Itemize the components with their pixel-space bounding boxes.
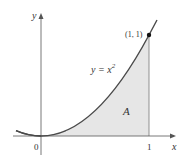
point-1-1 xyxy=(147,33,151,37)
y-axis-label: y xyxy=(31,10,37,21)
region-label-a: A xyxy=(122,105,130,117)
point-label: (1, 1) xyxy=(125,30,143,39)
area-diagram: y x 0 1 (1, 1) y = x2 A xyxy=(0,0,183,164)
x-axis-arrow-icon xyxy=(170,134,176,139)
y-axis-arrow-icon xyxy=(39,13,44,19)
origin-label: 0 xyxy=(34,142,39,152)
parabola-curve-left xyxy=(16,131,41,136)
curve-label-exponent: 2 xyxy=(112,62,116,70)
shaded-region-a xyxy=(41,35,149,136)
x-tick-label-1: 1 xyxy=(147,142,152,152)
diagram-canvas: y x 0 1 (1, 1) y = x2 A xyxy=(0,0,183,164)
x-axis-label: x xyxy=(171,141,177,152)
curve-label-base: y = x xyxy=(90,64,112,75)
curve-label: y = x2 xyxy=(90,62,116,75)
